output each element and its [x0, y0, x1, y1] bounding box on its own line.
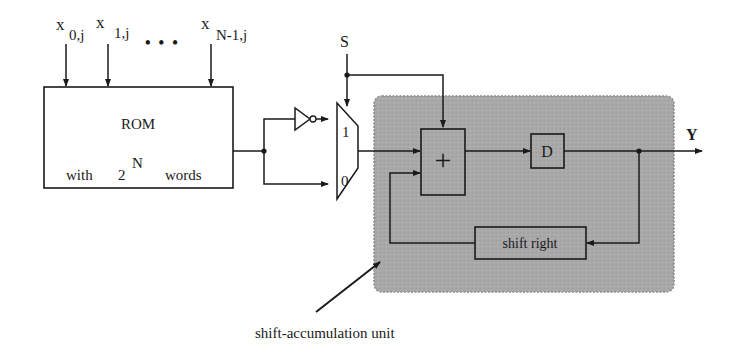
- input-x1-label: x 1,j: [96, 13, 129, 41]
- rom-title: ROM: [121, 116, 155, 132]
- unit-caption: shift-accumulation unit: [255, 325, 395, 341]
- rom-with: with: [66, 167, 93, 183]
- shift-accumulation-unit-region: [374, 96, 674, 292]
- inverter: [295, 108, 328, 130]
- input-xn-label: x N-1,j: [201, 14, 247, 43]
- shift-right-label: shift right: [503, 236, 558, 251]
- rom-exponent: N: [132, 155, 143, 171]
- input-x0-label: x 0,j: [56, 15, 84, 43]
- wire-to-inverter: [264, 119, 295, 151]
- ellipsis: • • •: [145, 34, 180, 51]
- mux-input-1-label: 1: [342, 124, 350, 140]
- rom-base: 2: [118, 167, 126, 183]
- output-y-label: Y: [686, 126, 698, 143]
- wire-to-mux-0: [264, 151, 328, 184]
- svg-text:1,j: 1,j: [114, 25, 129, 41]
- svg-text:N-1,j: N-1,j: [216, 27, 247, 43]
- delay-label: D: [541, 143, 553, 160]
- svg-text:0,j: 0,j: [69, 27, 84, 43]
- distributed-arithmetic-diagram: x 0,j x 1,j • • • x N-1,j ROM with 2 N w…: [0, 0, 734, 358]
- rom-words: words: [165, 167, 202, 183]
- svg-text:x: x: [201, 14, 210, 33]
- svg-text:x: x: [56, 15, 65, 34]
- mux-input-0-label: 0: [341, 173, 349, 189]
- control-signal-s-label: S: [340, 33, 349, 50]
- svg-text:x: x: [96, 13, 105, 32]
- caption-arrow: [316, 262, 380, 312]
- adder-symbol: +: [435, 143, 452, 176]
